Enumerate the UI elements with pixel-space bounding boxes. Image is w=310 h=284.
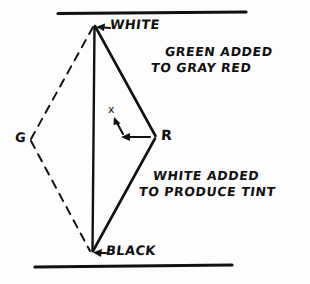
green-added-note-line2: TO GRAY RED — [150, 60, 272, 76]
green-added-note-line1: GREEN ADDED — [164, 44, 274, 59]
diagram-canvas: WHITE BLACK R G x GREEN ADDED TO GRAY RE… — [0, 0, 310, 284]
white-added-note: WHITE ADDED TO PRODUCE TINT — [150, 168, 279, 200]
bottom-rule — [35, 265, 232, 267]
top-rule — [58, 12, 246, 14]
x-pointer-arrow — [114, 117, 124, 134]
r-inward-arrow — [121, 133, 150, 141]
white-black-axis — [93, 27, 95, 251]
point-marker-label-x: x — [108, 104, 115, 115]
white-added-note-line2: TO PRODUCE TINT — [138, 184, 277, 200]
vertex-label-green: G — [15, 131, 27, 144]
green-added-note: GREEN ADDED TO GRAY RED — [162, 44, 274, 76]
dashed-green-edge-lower — [31, 141, 90, 251]
black-pointer-arrow — [93, 249, 106, 257]
vertex-label-white: WHITE — [109, 18, 160, 31]
white-added-note-line1: WHITE ADDED — [152, 168, 260, 183]
diagram-drawing — [0, 0, 310, 284]
vertex-label-red: R — [161, 128, 173, 142]
vertex-label-black: BLACK — [105, 244, 156, 257]
red-edge-upper — [95, 26, 156, 136]
dashed-green-edge-upper — [31, 27, 93, 139]
